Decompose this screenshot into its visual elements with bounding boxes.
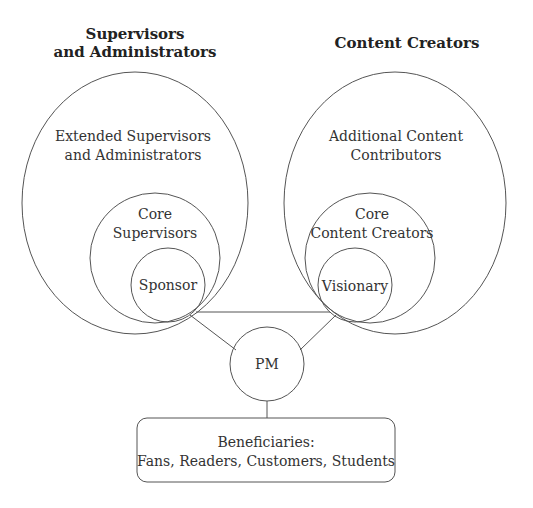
beneficiaries-label-line2: Fans, Readers, Customers, Students [137,453,395,469]
additional-contributors-label-line1: Additional Content [328,128,463,144]
extended-supervisors-label-line1: Extended Supervisors [55,128,211,144]
right-group-title: Content Creators [335,34,480,52]
core-supervisors-label-line2: Supervisors [113,225,197,241]
beneficiaries-label-line1: Beneficiaries: [217,434,314,450]
left-group-title-line1: Supervisors [86,25,185,43]
core-supervisors-label-line1: Core [138,206,172,222]
sponsor-pm-connector [190,315,236,350]
core-content-creators-label-line1: Core [355,206,389,222]
stakeholder-diagram: Supervisors and Administrators Content C… [0,0,533,508]
extended-supervisors-ellipse [22,72,248,334]
additional-contributors-ellipse [284,72,506,334]
sponsor-label: Sponsor [139,277,198,293]
visionary-label: Visionary [321,278,388,294]
visionary-pm-connector [300,315,336,350]
additional-contributors-label-line2: Contributors [351,147,442,163]
beneficiaries-box [137,418,395,482]
core-content-creators-label-line2: Content Creators [310,225,433,241]
extended-supervisors-label-line2: and Administrators [65,147,202,163]
pm-label: PM [255,356,279,372]
left-group-title-line2: and Administrators [54,43,217,61]
